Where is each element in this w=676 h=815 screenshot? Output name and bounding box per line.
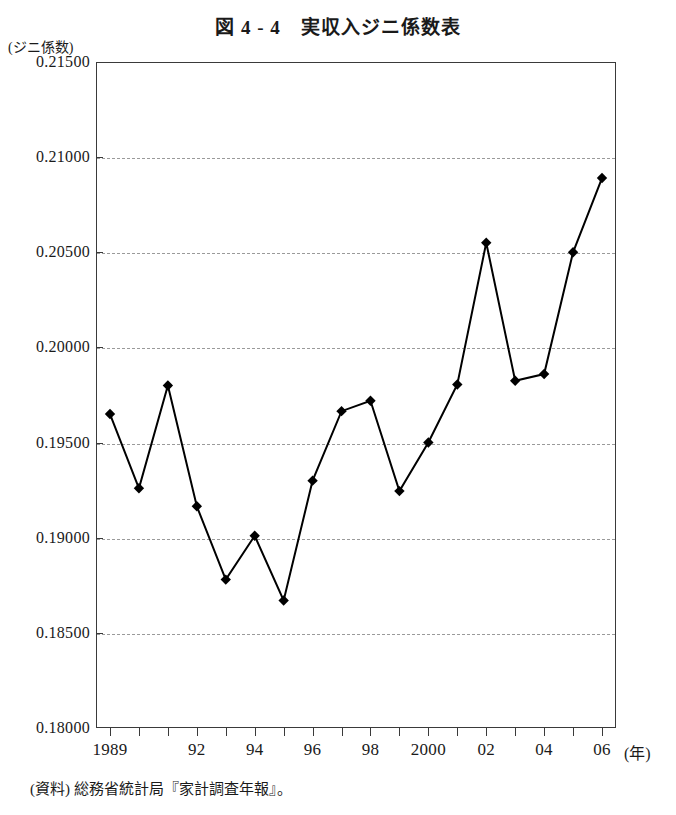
x-tick-mark (313, 728, 314, 736)
x-tick-mark (457, 728, 458, 736)
plot-area (96, 62, 616, 728)
y-tick-label: 0.19000 (4, 530, 90, 546)
y-axis-tick-labels: 0.215000.210000.205000.200000.195000.190… (0, 62, 90, 728)
y-tick-label: 0.21500 (4, 54, 90, 70)
gridline (97, 348, 615, 349)
x-tick-mark (428, 728, 429, 736)
y-tick-label: 0.18000 (4, 720, 90, 736)
source-note: (資料) 総務省統計局『家計調査年報』。 (30, 777, 292, 798)
x-tick-label: 94 (246, 740, 264, 760)
x-tick-label: 04 (535, 740, 553, 760)
x-tick-label: 1989 (92, 740, 127, 760)
x-tick-label: 06 (593, 740, 611, 760)
x-tick-label: 2000 (411, 740, 446, 760)
y-tick-label: 0.20000 (4, 339, 90, 355)
x-axis-unit-label: (年) (624, 740, 651, 764)
x-tick-mark (197, 728, 198, 736)
x-tick-mark (139, 728, 140, 736)
figure-title: 図 4 - 4 実収入ジニ係数表 (0, 12, 676, 39)
y-tick-label: 0.21000 (4, 149, 90, 165)
gridline (97, 253, 615, 254)
x-tick-mark (515, 728, 516, 736)
x-tick-mark (284, 728, 285, 736)
figure-root: 図 4 - 4 実収入ジニ係数表 (ジニ係数) 0.215000.210000.… (0, 0, 676, 815)
y-tick-label: 0.18500 (4, 625, 90, 641)
y-tick-mark (96, 347, 103, 348)
y-tick-label: 0.20500 (4, 244, 90, 260)
y-tick-mark (96, 633, 103, 634)
x-tick-label: 92 (188, 740, 206, 760)
x-tick-mark (226, 728, 227, 736)
gridline (97, 158, 615, 159)
x-tick-mark (370, 728, 371, 736)
x-tick-label: 96 (304, 740, 322, 760)
y-tick-mark (96, 443, 103, 444)
gridline (97, 634, 615, 635)
y-tick-mark (96, 538, 103, 539)
x-tick-mark (602, 728, 603, 736)
x-tick-mark (255, 728, 256, 736)
gridline (97, 539, 615, 540)
x-tick-mark (486, 728, 487, 736)
x-tick-label: 02 (477, 740, 495, 760)
y-tick-mark (96, 252, 103, 253)
x-tick-mark (544, 728, 545, 736)
x-tick-mark (342, 728, 343, 736)
y-tick-label: 0.19500 (4, 435, 90, 451)
gridline (97, 444, 615, 445)
y-tick-mark (96, 157, 103, 158)
x-tick-mark (168, 728, 169, 736)
x-tick-mark (110, 728, 111, 736)
x-tick-label: 98 (362, 740, 380, 760)
x-tick-mark (573, 728, 574, 736)
x-tick-mark (399, 728, 400, 736)
